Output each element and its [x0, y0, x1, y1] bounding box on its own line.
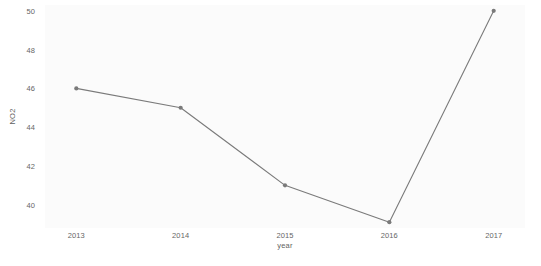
y-tick-label: 44 — [26, 123, 35, 132]
x-tick-label: 2016 — [381, 231, 398, 240]
line-chart: 404244464850 NO2 20132014201520162017 ye… — [0, 0, 541, 266]
plot-panel — [45, 5, 525, 228]
data-point-marker — [387, 220, 391, 224]
data-point-marker — [283, 183, 287, 187]
x-tick-label: 2017 — [485, 231, 502, 240]
y-axis-title-label: NO2 — [8, 108, 17, 124]
x-tick-label: 2014 — [172, 231, 189, 240]
y-axis-title: NO2 — [5, 5, 19, 228]
data-point-marker — [492, 9, 496, 13]
series-line — [76, 11, 493, 222]
y-tick-label: 40 — [26, 200, 35, 209]
series-layer — [45, 5, 525, 228]
x-tick-label: 2013 — [68, 231, 85, 240]
data-point-marker — [179, 106, 183, 110]
y-tick-label: 42 — [26, 161, 35, 170]
x-axis-title: year — [45, 241, 525, 250]
y-tick-label: 48 — [26, 45, 35, 54]
y-tick-label: 46 — [26, 84, 35, 93]
x-tick-label: 2015 — [276, 231, 293, 240]
y-tick-label: 50 — [26, 6, 35, 15]
data-point-marker — [74, 86, 78, 90]
